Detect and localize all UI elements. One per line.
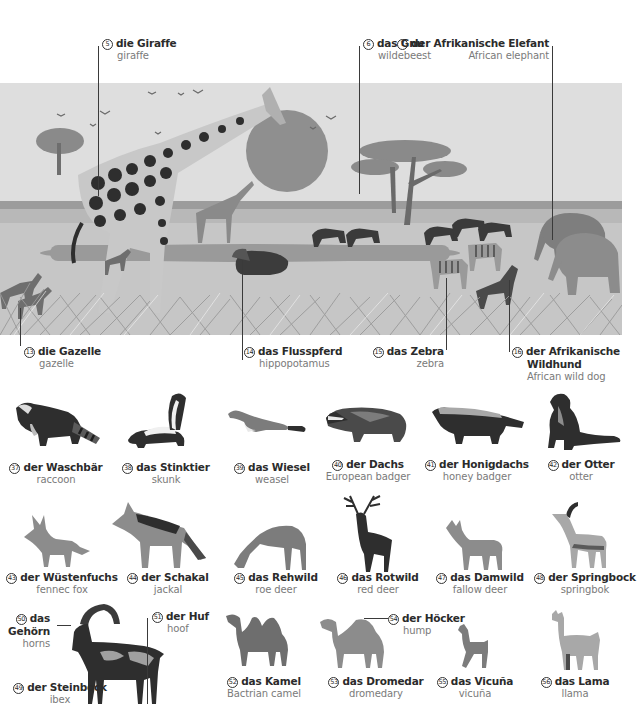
number-badge: 54 (388, 614, 399, 625)
label-en: ibex (10, 694, 110, 704)
label-en: horns (8, 638, 50, 650)
number-badge: 13 (24, 347, 35, 358)
roe-deer-illustration (230, 514, 310, 572)
label-en: otter (536, 471, 626, 483)
number-badge: 48 (534, 573, 545, 584)
number-badge: 15 (373, 347, 384, 358)
otter-illustration (544, 392, 624, 452)
number-badge: 52 (227, 677, 238, 688)
leader-line-wildebeest (359, 46, 360, 194)
label-european-badger: 40der Dachs European badger (316, 458, 420, 483)
label-vicuna: 55das Vicuña vicuña (430, 675, 520, 700)
label-de: der Wüstenfuchs (20, 571, 117, 583)
label-ibex: 49der Steinbock ibex (10, 681, 110, 704)
number-badge: 53 (328, 677, 339, 688)
label-en: Bactrian camel (214, 688, 314, 700)
label-en: skunk (116, 474, 216, 486)
skunk-illustration (124, 390, 194, 450)
label-de: das Dromedar (342, 675, 423, 687)
number-badge: 14 (244, 347, 255, 358)
label-de: das Vicuña (451, 675, 513, 687)
label-de: das Lama (555, 675, 610, 687)
label-en: African elephant (397, 50, 549, 62)
number-badge: 56 (541, 677, 552, 688)
label-skunk: 38das Stinktier skunk (116, 461, 216, 486)
label-de: der Otter (562, 458, 615, 470)
european-badger-illustration (320, 400, 410, 446)
label-de: der Afrikanische Elefant (411, 37, 549, 49)
leader-line-zebra (446, 278, 447, 350)
number-badge: 37 (9, 463, 20, 474)
bactrian-camel-illustration (224, 610, 298, 666)
number-badge: 40 (332, 460, 343, 471)
label-en: dromedary (324, 688, 428, 700)
jackal-illustration (110, 498, 210, 572)
leader-line-gazelle (20, 308, 21, 346)
number-badge: 42 (548, 460, 559, 471)
label-en: honey badger (424, 471, 530, 483)
label-springbok: 48der Springbock springbok (532, 571, 638, 596)
label-en: roe deer (226, 584, 326, 596)
label-otter: 42der Otter otter (536, 458, 626, 483)
savanna-illustration (0, 83, 622, 335)
label-dromedary: 53das Dromedar dromedary (324, 675, 428, 700)
number-badge: 38 (122, 463, 133, 474)
label-en: African wild dog (512, 371, 620, 383)
number-badge: 7 (397, 39, 408, 50)
number-badge: 51 (152, 612, 163, 623)
label-raccoon: 37der Waschbär raccoon (6, 461, 106, 486)
label-de-line2: Wildhund (512, 358, 620, 370)
red-deer-illustration (334, 492, 400, 574)
label-en: weasel (222, 474, 322, 486)
label-en: fennec fox (6, 584, 118, 596)
label-en: giraffe (102, 50, 176, 62)
leader-line-hoof (147, 618, 148, 704)
label-horns: 50das Gehörn horns (8, 612, 50, 650)
label-de: der Afrikanische (526, 345, 620, 357)
label-de: der Schakal (141, 571, 208, 583)
label-en: fallow deer (430, 584, 530, 596)
number-badge: 6 (363, 39, 374, 50)
number-badge: 49 (13, 683, 24, 694)
label-de: das Kamel (241, 675, 301, 687)
number-badge: 5 (102, 39, 113, 50)
label-jackal: 44der Schakal jackal (118, 571, 218, 596)
label-de: der Honigdachs (439, 458, 529, 470)
number-badge: 16 (512, 347, 523, 358)
honey-badger-illustration (428, 402, 528, 446)
label-de: das Damwild (450, 571, 523, 583)
llama-illustration (546, 608, 606, 672)
label-zebra: 15das Zebra zebra (373, 345, 444, 370)
leader-line-hump (364, 618, 388, 619)
label-en: red deer (328, 584, 428, 596)
label-llama: 56das Lama llama (530, 675, 620, 700)
number-badge: 44 (127, 573, 138, 584)
label-de: der Waschbär (23, 461, 102, 473)
label-bactrian-camel: 52das Kamel Bactrian camel (214, 675, 314, 700)
leader-line-horns (57, 625, 71, 626)
label-en: springbok (532, 584, 638, 596)
label-de: der Höcker (402, 612, 465, 624)
raccoon-illustration (8, 398, 104, 450)
label-en: hippopotamus (244, 358, 342, 370)
label-de-line2: Gehörn (8, 625, 50, 637)
label-roe-deer: 45das Rehwild roe deer (226, 571, 326, 596)
fallow-deer-illustration (440, 518, 510, 572)
label-african-wild-dog: 16der Afrikanische Wildhund African wild… (512, 345, 620, 383)
label-en: raccoon (6, 474, 106, 486)
label-de: das Zebra (387, 345, 444, 357)
label-hump: 54der Höcker hump (388, 612, 465, 637)
label-en: European badger (316, 471, 420, 483)
label-honey-badger: 41der Honigdachs honey badger (424, 458, 530, 483)
number-badge: 39 (234, 463, 245, 474)
label-de: der Steinbock (27, 681, 107, 693)
label-fallow-deer: 47das Damwild fallow deer (430, 571, 530, 596)
label-de: der Dachs (346, 458, 403, 470)
leader-line-giraffe (98, 46, 99, 196)
label-hoof: 51der Huf hoof (152, 610, 209, 635)
number-badge: 50 (16, 614, 27, 625)
label-de: der Springbock (548, 571, 635, 583)
number-badge: 55 (437, 677, 448, 688)
label-giraffe: 5die Giraffe giraffe (102, 37, 176, 62)
dromedary-illustration (318, 614, 392, 670)
